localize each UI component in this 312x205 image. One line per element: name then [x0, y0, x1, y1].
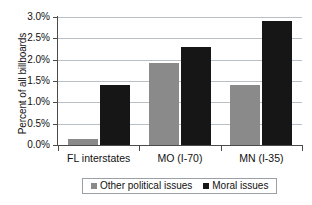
- bar: [262, 21, 292, 145]
- legend-label: Other political issues: [100, 181, 192, 191]
- x-category-label: MN (I-35): [221, 152, 302, 164]
- chart-legend: Other political issuesMoral issues: [82, 178, 277, 194]
- x-tick-mark: [139, 146, 140, 151]
- y-tick-label: 1.0%: [4, 97, 50, 107]
- y-tick-label: 0.5%: [4, 119, 50, 129]
- legend-entry: Moral issues: [203, 181, 268, 191]
- bar-chart: Percent of all billboards 3.0%2.5%2.0%1.…: [0, 0, 312, 205]
- y-tick-label: 1.5%: [4, 76, 50, 86]
- legend-swatch-icon: [91, 183, 97, 189]
- legend-swatch-icon: [203, 183, 209, 189]
- y-tick-label: 0.0%: [4, 140, 50, 150]
- y-tick-label: 2.0%: [4, 55, 50, 65]
- x-category-label: MO (I-70): [139, 152, 220, 164]
- legend-label: Moral issues: [212, 181, 268, 191]
- x-tick-mark: [58, 146, 59, 151]
- bar: [230, 85, 260, 145]
- y-tick-label: 2.5%: [4, 33, 50, 43]
- legend-entry: Other political issues: [91, 181, 192, 191]
- x-axis-line: [57, 145, 303, 146]
- x-category-label: FL interstates: [58, 152, 139, 164]
- bar: [181, 47, 211, 145]
- x-tick-mark: [302, 146, 303, 151]
- bar: [68, 139, 98, 145]
- x-tick-mark: [221, 146, 222, 151]
- y-tick-label: 3.0%: [4, 12, 50, 22]
- bars-layer: [58, 17, 302, 145]
- bar: [100, 85, 130, 145]
- bar: [149, 63, 179, 145]
